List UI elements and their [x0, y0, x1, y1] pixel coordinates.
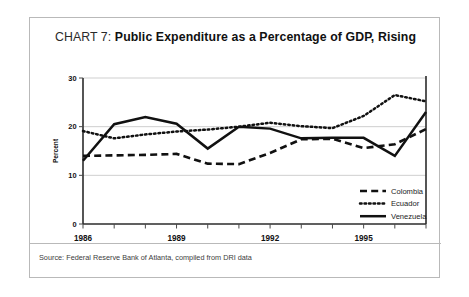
y-axis-title: Percent — [52, 138, 59, 163]
x-tick-label-1986: 1986 — [74, 234, 93, 243]
chart-legend: ColombiaEcuadorVenezuela — [360, 187, 427, 221]
x-tick-label-1992: 1992 — [261, 234, 280, 243]
line-chart-svg: 0102030 1986198919921995 Percent Colombi… — [30, 18, 441, 279]
chart-figure-container: CHART 7: Public Expenditure as a Percent… — [29, 17, 440, 278]
y-axis-title-group: Percent — [52, 138, 59, 163]
series-line-ecuador — [83, 95, 426, 138]
legend-label-ecuador: Ecuador — [391, 199, 420, 208]
series-line-colombia — [83, 129, 426, 164]
source-note: Source: Federal Reserve Bank of Atlanta,… — [39, 253, 252, 262]
y-tick-label-20: 20 — [68, 122, 76, 131]
data-series-group — [83, 95, 426, 164]
series-line-venezuela — [83, 112, 426, 161]
y-tick-label-30: 30 — [68, 74, 76, 83]
y-tick-label-0: 0 — [72, 220, 76, 229]
x-tick-label-1995: 1995 — [355, 234, 374, 243]
legend-label-venezuela: Venezuela — [391, 212, 427, 221]
legend-label-colombia: Colombia — [391, 187, 424, 196]
y-axis-group: 0102030 — [68, 74, 83, 229]
source-bar: Source: Federal Reserve Bank of Atlanta,… — [30, 243, 441, 277]
x-axis-group: 1986198919921995 — [74, 224, 426, 243]
y-tick-label-10: 10 — [68, 171, 76, 180]
x-tick-label-1989: 1989 — [167, 234, 186, 243]
plot-area-wrapper: 0102030 1986198919921995 Percent Colombi… — [30, 18, 441, 279]
